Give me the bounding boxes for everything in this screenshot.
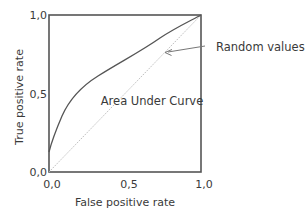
- y-tick-1-0: 1,0: [30, 9, 48, 22]
- x-axis-label: False positive rate: [75, 196, 175, 209]
- annotation-arrow-line: [168, 46, 205, 52]
- arrowhead-icon: [165, 50, 172, 56]
- roc-curve-line: [49, 15, 201, 152]
- x-tick-0-0: 0,0: [43, 178, 61, 191]
- auc-label: Area Under Curve: [101, 94, 204, 108]
- y-tick-0-5: 0,5: [30, 88, 48, 101]
- y-axis-label: True positive rate: [13, 49, 26, 146]
- random-values-label: Random values: [216, 40, 305, 54]
- roc-chart: Random values Area Under Curve 1,0 0,5 0…: [0, 0, 308, 215]
- x-tick-1-0: 1,0: [195, 178, 213, 191]
- x-tick-0-5: 0,5: [120, 178, 138, 191]
